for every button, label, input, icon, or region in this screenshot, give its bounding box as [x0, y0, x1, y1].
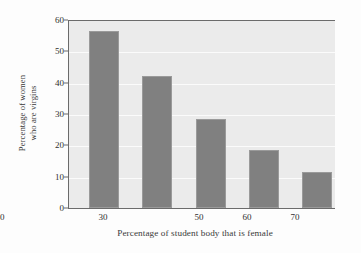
bar-70 [302, 172, 332, 208]
x-tick-label-40-placeholder: 40 [0, 212, 20, 222]
y-axis-ticks: 0 10 20 30 40 50 60 [40, 0, 64, 253]
bar-series [69, 21, 335, 208]
x-tick-label-70: 70 [275, 212, 315, 222]
y-tick-label-30: 30 [42, 109, 64, 119]
x-tick-label-30: 30 [83, 212, 123, 222]
y-tick-label-0: 0 [42, 203, 64, 213]
bar-40 [142, 76, 172, 208]
y-tick-label-20: 20 [42, 140, 64, 150]
bar-chart-figure: Percentage of women who are virgins 0 10… [0, 0, 361, 253]
plot-area [68, 20, 335, 208]
y-axis-label-line-1: Percentage of women [17, 75, 28, 151]
bar-30 [89, 31, 119, 208]
bar-60 [249, 150, 279, 208]
y-tick-label-40: 40 [42, 78, 64, 88]
x-tick-label-50: 50 [179, 212, 219, 222]
x-tick-label-60: 60 [227, 212, 267, 222]
bar-50 [196, 119, 226, 208]
y-tick-label-10: 10 [42, 172, 64, 182]
y-tick-label-60: 60 [42, 15, 64, 25]
y-axis-label-line-2: who are virgins [28, 75, 39, 151]
y-tick-label-50: 50 [42, 46, 64, 56]
x-axis-line [68, 208, 335, 209]
x-axis-label: Percentage of student body that is femal… [50, 228, 340, 238]
